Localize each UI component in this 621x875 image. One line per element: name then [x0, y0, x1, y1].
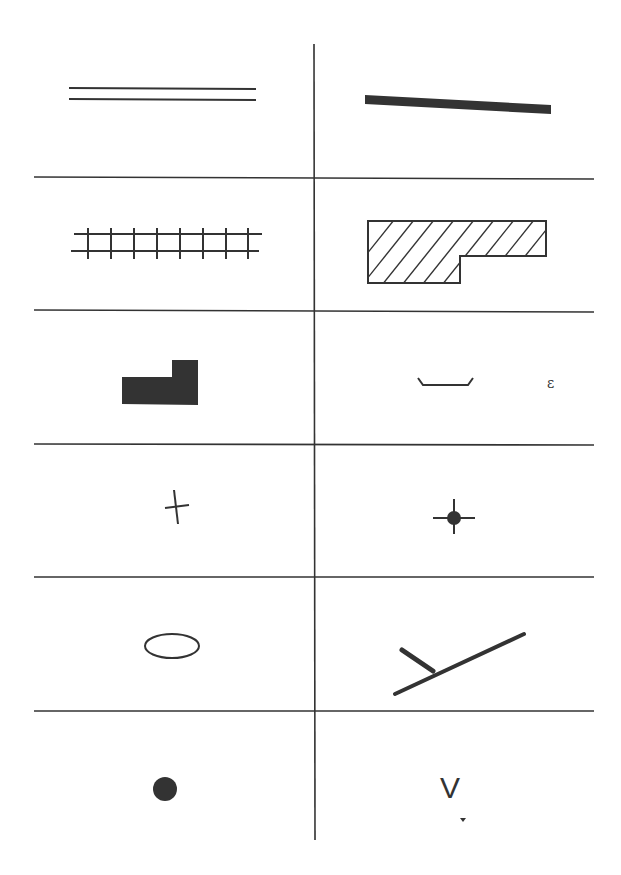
table-grid — [34, 44, 594, 840]
ellipse-outline-icon — [145, 634, 199, 658]
row-divider-2 — [34, 310, 594, 312]
simple-cross-icon — [165, 490, 189, 524]
branching-line-icon — [395, 634, 524, 694]
small-triangle-mark-icon — [460, 818, 466, 822]
railway-track-icon — [71, 228, 262, 259]
symbol-legend-table — [0, 0, 621, 875]
trough-bracket-icon — [418, 378, 473, 385]
cross-with-dot-icon — [433, 499, 475, 534]
epsilon-annotation: ε — [547, 376, 554, 390]
hatched-building-icon — [330, 200, 590, 300]
double-parallel-line-icon — [69, 88, 256, 100]
solid-building-block-icon — [122, 360, 198, 405]
thick-sloped-bar-icon — [365, 95, 551, 114]
column-divider — [314, 44, 315, 840]
solid-dot-icon — [153, 777, 177, 801]
row-divider-1 — [34, 177, 594, 179]
row-divider-3 — [34, 444, 594, 445]
v-mark-label: V — [440, 773, 460, 803]
